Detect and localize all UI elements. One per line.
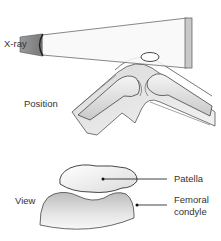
femoral-label-line1: Femoral (174, 194, 209, 205)
position-label: Position (24, 98, 58, 109)
position-panel: X-ray Position (4, 18, 215, 135)
patella-position (141, 53, 159, 62)
femoral-condyle (40, 192, 134, 229)
patella-label: Patella (174, 173, 204, 184)
detector-plate (185, 18, 192, 68)
knee-leg (72, 57, 215, 135)
view-panel: Patella Femoral condyle View (15, 165, 209, 229)
xray-beam (42, 18, 187, 68)
xray-label: X-ray (4, 38, 27, 49)
view-label: View (15, 195, 36, 206)
knee-skyline-diagram: X-ray Position Patella Femoral condyle V… (0, 0, 221, 241)
femoral-label-line2: condyle (174, 206, 207, 217)
